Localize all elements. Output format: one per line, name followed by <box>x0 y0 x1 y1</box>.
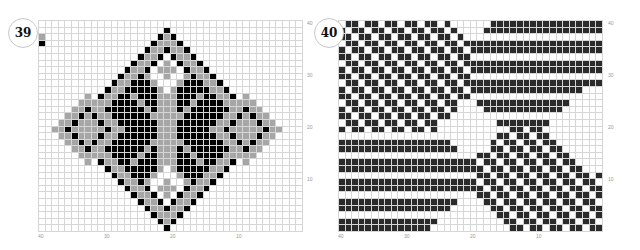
grid-cell <box>118 21 125 28</box>
grid-cell <box>346 153 353 160</box>
grid-cell <box>177 219 184 226</box>
grid-cell <box>359 100 366 107</box>
grid-cell <box>290 140 297 147</box>
grid-cell <box>52 179 59 186</box>
grid-cell <box>112 219 119 226</box>
grid-cell <box>570 133 577 140</box>
grid-cell <box>184 34 191 41</box>
grid-cell <box>418 100 425 107</box>
grid-cell <box>125 94 132 101</box>
grid-cell <box>412 206 419 213</box>
grid-cell <box>171 192 178 199</box>
grid-cell <box>365 166 372 173</box>
grid-cell <box>464 133 471 140</box>
grid-cell <box>131 192 138 199</box>
grid-cell <box>385 206 392 213</box>
grid-cell <box>72 153 79 160</box>
grid-cell <box>425 28 432 35</box>
grid-cell <box>197 107 204 114</box>
grid-cell <box>563 107 570 114</box>
grid-cell <box>458 107 465 114</box>
grid-cell <box>52 120 59 127</box>
grid-cell <box>543 28 550 35</box>
grid-cell <box>296 166 303 173</box>
grid-cell <box>257 212 264 219</box>
grid-cell <box>92 225 99 232</box>
grid-cell <box>138 206 145 213</box>
grid-cell <box>484 153 491 160</box>
grid-cell <box>85 34 92 41</box>
grid-cell <box>263 47 270 54</box>
grid-cell <box>491 34 498 41</box>
grid-cell <box>164 159 171 166</box>
grid-cell <box>296 212 303 219</box>
grid-cell <box>365 107 372 114</box>
grid-cell <box>243 47 250 54</box>
grid-cell <box>171 41 178 48</box>
grid-cell <box>405 54 412 61</box>
grid-cell <box>204 74 211 81</box>
grid-cell <box>105 186 112 193</box>
grid-cell <box>596 186 603 193</box>
grid-cell <box>283 47 290 54</box>
grid-cell <box>576 34 583 41</box>
grid-cell <box>224 28 231 35</box>
grid-cell <box>283 206 290 213</box>
grid-cell <box>379 186 386 193</box>
grid-cell <box>524 199 531 206</box>
grid-cell <box>85 100 92 107</box>
grid-cell <box>118 192 125 199</box>
grid-cell <box>131 47 138 54</box>
grid-cell <box>537 186 544 193</box>
grid-cell <box>392 159 399 166</box>
grid-cell <box>484 74 491 81</box>
grid-cell <box>557 47 564 54</box>
grid-cell <box>352 28 359 35</box>
grid-cell <box>398 199 405 206</box>
grid-cell <box>131 140 138 147</box>
grid-cell <box>510 219 517 226</box>
grid-cell <box>563 41 570 48</box>
grid-cell <box>197 87 204 94</box>
grid-cell <box>405 159 412 166</box>
grid-cell <box>543 127 550 134</box>
grid-cell <box>171 199 178 206</box>
grid-cell <box>491 159 498 166</box>
grid-cell <box>224 192 231 199</box>
grid-cell <box>46 47 53 54</box>
grid-cell <box>105 107 112 114</box>
grid-cell <box>79 80 86 87</box>
grid-cell <box>451 87 458 94</box>
grid-cell <box>372 186 379 193</box>
grid-cell <box>385 219 392 226</box>
grid-cell <box>85 212 92 219</box>
grid-cell <box>230 61 237 68</box>
grid-cell <box>112 47 119 54</box>
grid-cell <box>596 54 603 61</box>
grid-cell <box>145 159 152 166</box>
grid-cell <box>431 206 438 213</box>
grid-cell <box>138 34 145 41</box>
grid-cell <box>243 61 250 68</box>
grid-cell <box>550 186 557 193</box>
grid-cell <box>510 159 517 166</box>
grid-cell <box>398 225 405 232</box>
grid-cell <box>85 21 92 28</box>
grid-cell <box>85 133 92 140</box>
grid-cell <box>596 127 603 134</box>
grid-cell <box>543 133 550 140</box>
grid-cell <box>46 41 53 48</box>
grid-cell <box>191 41 198 48</box>
grid-cell <box>151 21 158 28</box>
grid-cell <box>557 212 564 219</box>
grid-cell <box>184 94 191 101</box>
grid-cell <box>596 192 603 199</box>
grid-cell <box>171 179 178 186</box>
grid-cell <box>365 113 372 120</box>
grid-cell <box>79 206 86 213</box>
grid-cell <box>451 140 458 147</box>
grid-cell <box>237 28 244 35</box>
grid-cell <box>158 219 165 226</box>
grid-cell <box>158 100 165 107</box>
grid-cell <box>471 179 478 186</box>
